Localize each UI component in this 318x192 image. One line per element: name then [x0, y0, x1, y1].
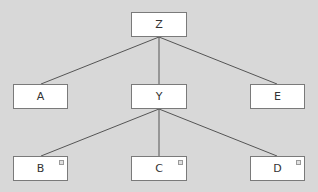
node-z-label: Z	[155, 18, 163, 31]
edge-y-b	[41, 109, 159, 156]
node-d-label: D	[273, 162, 281, 175]
leaf-marker-icon	[59, 160, 64, 165]
node-z: Z	[131, 12, 187, 37]
node-a-label: A	[37, 90, 45, 103]
node-c: C	[131, 156, 187, 181]
edge-z-a	[41, 37, 159, 84]
node-y: Y	[131, 84, 187, 109]
node-y-label: Y	[156, 90, 163, 103]
node-d: D	[250, 156, 305, 181]
node-b-label: B	[37, 162, 45, 175]
node-c-label: C	[155, 162, 163, 175]
node-e-label: E	[274, 90, 281, 103]
node-a: A	[13, 84, 68, 109]
edge-z-e	[159, 37, 277, 84]
edge-y-d	[159, 109, 277, 156]
leaf-marker-icon	[296, 160, 301, 165]
tree-diagram: Z A Y E B C D	[0, 0, 318, 192]
node-b: B	[13, 156, 68, 181]
node-e: E	[250, 84, 305, 109]
leaf-marker-icon	[178, 160, 183, 165]
